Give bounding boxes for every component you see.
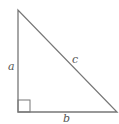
triangle: [18, 10, 117, 112]
label-a: a: [8, 60, 15, 73]
label-b: b: [63, 112, 70, 124]
right-angle-marker: [18, 100, 30, 112]
right-triangle-diagram: a c b: [0, 0, 119, 124]
label-c: c: [72, 53, 78, 66]
